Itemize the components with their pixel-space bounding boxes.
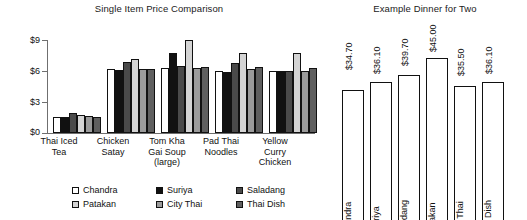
legend-swatch-saladang-icon: [236, 187, 243, 194]
bar-suriya: [277, 71, 285, 133]
legend-label-city-thai: City Thai: [167, 199, 202, 209]
dinner-bar-thai-dish: Thai Dish: [482, 82, 504, 220]
plot-area: [47, 40, 313, 133]
x-category-label-pad-thai-noodles: Pad ThaiNoodles: [190, 136, 252, 157]
bar-thai-dish: [201, 67, 209, 133]
legend-item-thai-dish: Thai Dish: [236, 199, 285, 209]
bar-group-thai-iced-tea: [53, 40, 103, 133]
x-category-label-tom-kha-gai-soup: Tom KhaGai Soup(large): [136, 136, 198, 168]
bar-thai-dish: [309, 68, 317, 133]
bar-group-tom-kha-gai-soup: [161, 40, 211, 133]
legend-swatch-thai-dish-icon: [236, 201, 243, 208]
y-axis-labels: $9 $6 $3 $0: [0, 0, 40, 220]
legend-item-chandra: Chandra: [72, 185, 156, 195]
dinner-bar-saladang: Saladang: [398, 75, 420, 220]
legend-swatch-patakan-icon: [72, 201, 79, 208]
bar-patakan: [77, 115, 85, 133]
dinner-bar-chandra: Chandra: [342, 90, 364, 220]
bar-suriya: [223, 72, 231, 133]
dinner-bar-label-saladang: Saladang: [399, 200, 409, 220]
chart-page: Single Item Price Comparison $9 $6 $3 $0: [0, 0, 527, 220]
bar-saladang: [285, 71, 293, 133]
bar-saladang: [177, 66, 185, 133]
legend-label-thai-dish: Thai Dish: [247, 199, 285, 209]
dinner-bar-label-thai-dish: Thai Dish: [483, 200, 493, 220]
legend-item-patakan: Patakan: [72, 199, 156, 209]
bar-city-thai: [85, 116, 93, 133]
legend-row-bottom: Patakan City Thai Thai Dish: [72, 197, 312, 211]
bar-thai-dish: [255, 67, 263, 133]
right-chart-title: Example Dinner for Two: [330, 3, 520, 14]
legend-label-patakan: Patakan: [83, 199, 116, 209]
bar-chandra: [215, 71, 223, 133]
y-tick-label-3: $3: [30, 98, 40, 107]
bar-chandra: [53, 117, 61, 133]
legend-item-saladang: Saladang: [236, 185, 285, 195]
x-category-label-thai-iced-tea: Thai IcedTea: [28, 136, 90, 157]
legend-label-suriya: Suriya: [167, 185, 193, 195]
legend-swatch-city-thai-icon: [156, 201, 163, 208]
single-item-price-chart: Single Item Price Comparison $9 $6 $3 $0: [0, 0, 330, 220]
bar-group-yellow-curry-chicken: [269, 40, 319, 133]
bar-thai-dish: [147, 69, 155, 133]
dinner-bar-city-thai: City Thai: [454, 86, 476, 220]
bar-patakan: [185, 40, 193, 133]
value-label-saladang: $39.70: [400, 38, 410, 66]
bar-group-pad-thai-noodles: [215, 40, 265, 133]
x-axis-line: [47, 133, 315, 134]
bar-city-thai: [301, 71, 309, 133]
bar-patakan: [239, 53, 247, 133]
bar-saladang: [231, 63, 239, 133]
value-label-city-thai: $35.50: [456, 48, 466, 76]
dinner-bar-label-suriya: Suriya: [371, 206, 381, 220]
bar-city-thai: [247, 69, 255, 133]
bar-saladang: [123, 62, 131, 133]
legend-swatch-chandra-icon: [72, 187, 79, 194]
value-label-suriya: $36.10: [372, 46, 382, 74]
y-tick-label-9: $9: [30, 36, 40, 45]
value-label-patakan: $45.00: [428, 24, 438, 52]
legend: Chandra Suriya Saladang Patakan: [72, 183, 312, 211]
bar-thai-dish: [93, 117, 101, 133]
dinner-bar-patakan: Patakan: [426, 58, 448, 220]
legend-label-chandra: Chandra: [83, 185, 118, 195]
x-category-label-yellow-curry-chicken: YellowCurryChicken: [244, 136, 306, 168]
legend-item-city-thai: City Thai: [156, 199, 236, 209]
dinner-bar-label-city-thai: City Thai: [455, 201, 465, 220]
legend-row-top: Chandra Suriya Saladang: [72, 183, 312, 197]
legend-item-suriya: Suriya: [156, 185, 236, 195]
bar-group-chicken-satay: [107, 40, 157, 133]
y-tick-0: [42, 133, 47, 134]
dinner-bar-suriya: Suriya: [370, 82, 392, 220]
bar-city-thai: [139, 69, 147, 133]
dinner-bar-label-chandra: Chandra: [343, 202, 353, 220]
bar-suriya: [61, 117, 69, 133]
value-label-thai-dish: $36.10: [484, 46, 494, 74]
bar-saladang: [69, 113, 77, 133]
bar-suriya: [169, 53, 177, 133]
bar-patakan: [293, 53, 301, 133]
x-category-label-chicken-satay: ChickenSatay: [82, 136, 144, 157]
legend-swatch-suriya-icon: [156, 187, 163, 194]
left-chart-title: Single Item Price Comparison: [0, 3, 318, 14]
value-label-chandra: $34.70: [344, 42, 354, 70]
bar-patakan: [131, 59, 139, 133]
example-dinner-chart: Example Dinner for Two $34.70 $36.10 $39…: [330, 0, 527, 220]
bar-city-thai: [193, 68, 201, 133]
y-tick-label-6: $6: [30, 67, 40, 76]
bar-suriya: [115, 70, 123, 133]
bar-chandra: [269, 71, 277, 133]
bar-chandra: [107, 69, 115, 133]
dinner-bar-label-patakan: Patakan: [427, 202, 437, 220]
bar-chandra: [161, 68, 169, 133]
legend-label-saladang: Saladang: [247, 185, 285, 195]
